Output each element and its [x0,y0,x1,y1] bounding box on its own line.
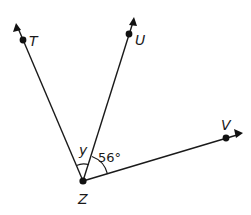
arrowhead-U-icon [129,17,137,26]
point-U [126,31,133,38]
point-Z [79,177,86,184]
label-V: V [221,117,232,133]
label-Z: Z [77,191,88,207]
angle-arc-y [77,164,90,166]
angle-diagram: T U V Z y 56° [0,0,251,215]
angle-label-y: y [78,142,88,158]
arrowhead-V-icon [234,129,243,138]
ray-ZT [18,28,83,181]
point-V [223,135,230,142]
angle-label-56: 56° [98,150,121,165]
label-U: U [135,32,145,48]
point-T [20,37,27,44]
label-T: T [29,33,39,49]
